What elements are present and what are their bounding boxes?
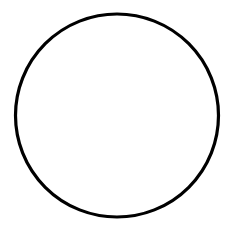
diagram-canvas [0,0,233,242]
circle-shape [16,14,219,217]
